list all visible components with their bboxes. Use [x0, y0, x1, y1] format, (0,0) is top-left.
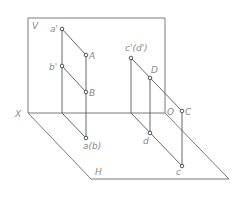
label-cd-prime: c'(d') — [125, 43, 148, 53]
label-a-prime: a' — [50, 24, 58, 34]
label-B: B — [89, 88, 95, 98]
line-d-c — [131, 113, 182, 166]
line-a-prime-A — [62, 29, 86, 55]
label-origin: O — [167, 107, 174, 117]
point-C — [180, 109, 184, 113]
label-ab: a(b) — [83, 141, 101, 151]
label-A: A — [88, 51, 95, 61]
label-h-plane: H — [95, 167, 102, 177]
label-D: D — [151, 65, 158, 75]
point-a-prime — [60, 27, 64, 31]
h-plane — [28, 113, 229, 179]
projector-oblique-ab — [62, 113, 86, 138]
point-b-prime — [60, 64, 64, 68]
label-c: c — [176, 167, 181, 177]
point-A — [84, 53, 88, 57]
point-d — [148, 131, 152, 135]
point-D — [148, 76, 152, 80]
label-x-axis: X — [14, 109, 22, 119]
label-C: C — [185, 107, 192, 117]
line-b-prime-B — [62, 66, 86, 92]
point-ab — [84, 136, 88, 140]
point-cd-prime — [129, 56, 133, 60]
projection-diagram: V X H O a' A b' B a(b) c'(d') D C d c — [0, 0, 248, 208]
label-v-plane: V — [32, 21, 39, 31]
label-b-prime: b' — [49, 62, 57, 72]
point-B — [84, 90, 88, 94]
label-d: d — [143, 136, 149, 146]
